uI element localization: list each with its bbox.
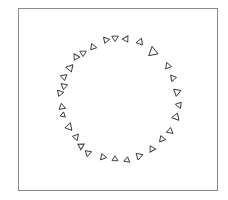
triangle-icon [112,156,118,161]
triangle-icon [88,43,97,51]
triangle-icon [71,54,79,62]
triangle-icon [172,112,181,121]
triangle-ring [0,0,228,200]
triangle-icon [60,75,67,81]
triangle-icon [147,144,155,152]
triangle-icon [83,148,91,157]
triangle-icon [166,127,173,133]
triangle-icon [136,38,145,47]
triangle-icon [102,37,110,44]
triangle-icon [112,36,119,41]
triangle-icon [149,46,160,58]
triangle-icon [66,65,75,74]
triangle-icon [171,74,177,81]
triangle-icon [59,112,65,119]
figure-canvas [0,0,228,200]
triangle-icon [174,87,183,96]
triangle-icon [57,103,65,112]
triangle-icon [166,62,172,69]
triangle-icon [56,90,64,97]
triangle-icon [175,100,184,108]
triangle-icon [72,133,78,140]
triangle-icon [76,141,84,149]
triangle-icon [64,123,72,132]
triangle-icon [80,51,87,56]
triangle-icon [122,36,130,44]
triangle-icon [124,156,131,162]
triangle-icon [99,153,107,160]
triangle-icon [134,151,143,160]
triangle-icon [60,84,67,90]
triangle-icon [158,135,166,142]
